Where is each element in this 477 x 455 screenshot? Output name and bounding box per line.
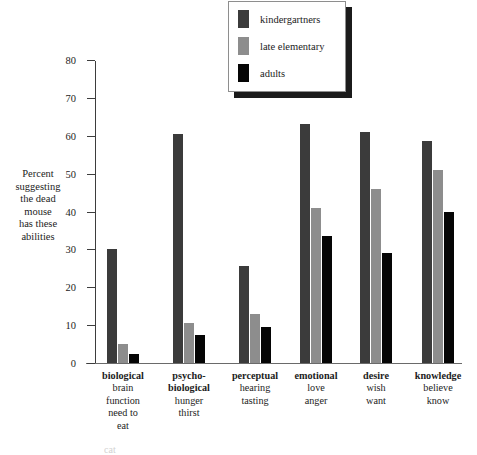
- footer-caption: cat: [104, 444, 477, 455]
- y-axis-title-line: the dead: [2, 193, 74, 206]
- y-axis-title-line: Percent: [2, 168, 74, 181]
- y-axis-title: Percentsuggestingthe deadmousehas thesea…: [2, 168, 74, 244]
- bar: [382, 253, 392, 363]
- legend-item-label: adults: [260, 68, 285, 79]
- bar: [371, 189, 381, 363]
- y-axis-tick-label: 30: [66, 244, 77, 255]
- y-axis-tick-label: 40: [66, 206, 77, 217]
- bar: [118, 344, 128, 363]
- y-axis-tick-label: 10: [66, 320, 77, 331]
- legend-item-label: kindergartners: [260, 14, 320, 25]
- bar: [173, 134, 183, 363]
- bar: [239, 266, 249, 363]
- y-axis-tick-label: 20: [66, 282, 77, 293]
- bar: [444, 212, 454, 364]
- category-name: biological: [153, 382, 225, 394]
- y-axis-tick-label: 70: [66, 92, 77, 103]
- legend-swatch: [238, 10, 249, 28]
- y-axis-tick-label: 80: [66, 55, 77, 66]
- x-axis-category-label: knowledgebelieveknow: [402, 370, 474, 407]
- category-name: psycho-: [153, 370, 225, 382]
- legend: kindergartnerslate elementaryadults: [228, 1, 346, 92]
- bar: [184, 323, 194, 363]
- bar: [322, 236, 332, 363]
- bar: [360, 132, 370, 363]
- category-example-term: eat: [87, 420, 159, 432]
- bar: [311, 208, 321, 363]
- y-axis-title-line: has these: [2, 218, 74, 231]
- bar: [422, 141, 432, 363]
- y-axis-tick-label: 60: [66, 130, 77, 141]
- x-axis-category-label: psycho-biologicalhungerthirst: [153, 370, 225, 420]
- bar: [261, 327, 271, 363]
- legend-swatch: [238, 64, 249, 82]
- category-example-term: believe: [402, 382, 474, 394]
- category-name: biological: [87, 370, 159, 382]
- y-axis-tick: 70: [87, 98, 95, 99]
- category-example-term: know: [402, 395, 474, 407]
- bar: [433, 170, 443, 363]
- category-name: knowledge: [402, 370, 474, 382]
- legend-item: adults: [238, 64, 285, 82]
- y-axis-tick: 30: [87, 249, 95, 250]
- y-axis-tick: 20: [87, 287, 95, 288]
- y-axis-tick-label: 0: [71, 358, 76, 369]
- category-example-term: brain: [87, 382, 159, 394]
- x-axis-line: [86, 363, 462, 364]
- bar: [195, 335, 205, 363]
- bar: [250, 314, 260, 363]
- y-axis-tick: 60: [87, 136, 95, 137]
- y-axis-tick: 80: [87, 60, 95, 61]
- plot-area: 01020304050607080: [95, 58, 465, 364]
- bar: [129, 354, 139, 363]
- y-axis-title-line: mouse: [2, 206, 74, 219]
- bar: [107, 249, 117, 363]
- y-axis-tick-label: 50: [66, 168, 77, 179]
- legend-item: late elementary: [238, 37, 324, 55]
- y-axis-tick: 50: [87, 174, 95, 175]
- y-axis-tick: 0: [87, 363, 95, 364]
- y-axis-line: [95, 61, 96, 364]
- y-axis-title-line: abilities: [2, 231, 74, 244]
- legend-item-label: late elementary: [260, 41, 324, 52]
- category-example-term: need to: [87, 407, 159, 419]
- legend-item: kindergartners: [238, 10, 320, 28]
- y-axis-tick: 10: [87, 325, 95, 326]
- y-axis-title-line: suggesting: [2, 181, 74, 194]
- category-example-term: hunger: [153, 395, 225, 407]
- bar: [300, 124, 310, 363]
- legend-swatch: [238, 37, 249, 55]
- category-example-term: thirst: [153, 407, 225, 419]
- y-axis-tick: 40: [87, 212, 95, 213]
- x-axis-category-label: biologicalbrainfunctionneed toeat: [87, 370, 159, 432]
- category-example-term: function: [87, 395, 159, 407]
